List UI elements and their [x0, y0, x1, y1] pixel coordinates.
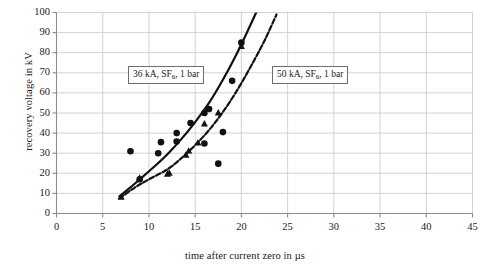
data-point-circle: [155, 150, 162, 157]
chart-figure: recovery voltage in kV time after curren…: [0, 0, 490, 277]
x-axis-label: time after current zero in µs: [0, 250, 490, 261]
x-tick-label: 15: [180, 222, 210, 233]
series-annotation-36ka: 36 kA, SF6, 1 bar: [128, 66, 204, 84]
fit-curve-1: [119, 10, 257, 196]
y-tick-label: 50: [16, 108, 50, 119]
x-tick-label: 35: [365, 222, 395, 233]
plot-area: [0, 0, 490, 277]
y-tick-label: 30: [16, 148, 50, 159]
data-point-circle: [187, 120, 194, 127]
x-tick-label: 10: [134, 222, 164, 233]
y-tick-label: 0: [16, 208, 50, 219]
data-point-circle: [158, 139, 165, 146]
series-2: [118, 15, 277, 200]
y-tick-label: 60: [16, 87, 50, 98]
data-point-circle: [127, 148, 134, 155]
y-tick-label: 100: [16, 7, 50, 18]
data-point-circle: [220, 129, 227, 136]
data-point-circle: [173, 130, 180, 137]
data-point-circle: [206, 106, 213, 113]
y-tick-label: 10: [16, 188, 50, 199]
x-tick-label: 45: [458, 222, 488, 233]
y-tick-label: 90: [16, 27, 50, 38]
series-layer: [118, 10, 277, 199]
x-tick-label: 0: [42, 222, 72, 233]
scan-artifact: [386, 0, 416, 7]
y-tick-label: 20: [16, 168, 50, 179]
series-annotation-50ka: 50 kA, SF6, 1 bar: [272, 66, 348, 84]
fit-curve-2: [119, 15, 276, 199]
y-tick-label: 40: [16, 128, 50, 139]
data-point-circle: [201, 140, 208, 147]
data-point-circle: [173, 138, 180, 145]
data-point-circle: [215, 160, 222, 167]
data-point-triangle: [215, 109, 222, 115]
x-tick-label: 30: [319, 222, 349, 233]
y-tick-label: 80: [16, 47, 50, 58]
data-point-circle: [229, 78, 236, 85]
x-tick-label: 5: [88, 222, 118, 233]
x-tick-label: 40: [411, 222, 441, 233]
x-tick-label: 20: [226, 222, 256, 233]
data-point-triangle: [201, 120, 208, 126]
x-tick-label: 25: [273, 222, 303, 233]
series-1: [119, 10, 257, 196]
y-tick-label: 70: [16, 67, 50, 78]
